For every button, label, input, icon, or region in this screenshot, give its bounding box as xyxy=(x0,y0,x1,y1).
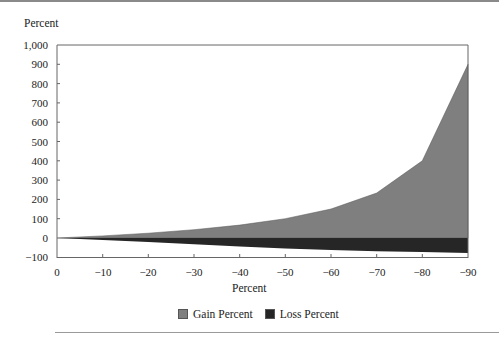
x-axis-title: Percent xyxy=(232,282,266,294)
area-plot xyxy=(0,0,499,348)
gain-area xyxy=(57,64,468,238)
x-tick: −60 xyxy=(311,266,351,278)
loss-swatch-icon xyxy=(265,309,275,319)
legend-item-loss: Loss Percent xyxy=(265,308,339,320)
gain-swatch-icon xyxy=(178,309,188,319)
legend-label: Loss Percent xyxy=(280,308,339,320)
x-tick: −30 xyxy=(174,266,214,278)
x-tick: −20 xyxy=(128,266,168,278)
x-tick: −40 xyxy=(220,266,260,278)
bottom-rule xyxy=(55,332,499,333)
x-tick: 0 xyxy=(37,266,77,278)
x-tick: −50 xyxy=(265,266,305,278)
x-tick: −70 xyxy=(357,266,397,278)
x-tick: −10 xyxy=(83,266,123,278)
legend-item-gain: Gain Percent xyxy=(178,308,253,320)
x-tick: −90 xyxy=(448,266,488,278)
loss-area xyxy=(57,238,468,253)
x-tick: −80 xyxy=(402,266,442,278)
legend-label: Gain Percent xyxy=(193,308,253,320)
legend: Gain Percent Loss Percent xyxy=(178,308,351,320)
